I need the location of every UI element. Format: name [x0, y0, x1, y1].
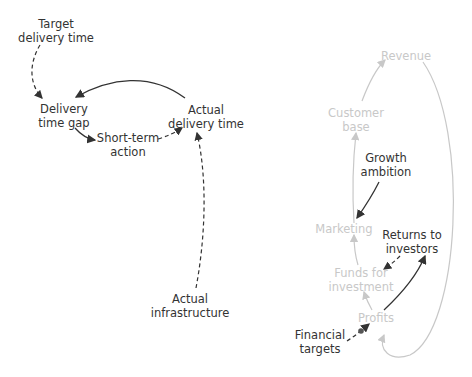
- node-target-delivery-time: Targetdelivery time: [18, 17, 94, 45]
- label-line: Revenue: [381, 49, 431, 63]
- node-financial-targets: Financialtargets: [295, 328, 345, 356]
- label-line: Actual: [151, 292, 230, 306]
- arrow-marketing-to-customer: [353, 133, 356, 223]
- node-actual-infrastructure: Actualinfrastructure: [151, 292, 230, 320]
- label-line: Growth: [361, 151, 412, 165]
- label-line: Target: [18, 17, 94, 31]
- label-line: Actual: [168, 103, 244, 117]
- label-line: Profits: [358, 311, 394, 325]
- label-line: delivery time: [18, 31, 94, 45]
- node-short-term-action: Short-termaction: [97, 131, 159, 159]
- arrow-customer-to-revenue: [362, 60, 385, 101]
- arrow-infra-to-actual: [196, 133, 204, 288]
- label-line: investors: [382, 242, 441, 256]
- arrow-target-to-gap: [32, 45, 42, 98]
- node-growth-ambition: Growthambition: [361, 151, 412, 179]
- node-actual-delivery-time: Actualdelivery time: [168, 103, 244, 131]
- label-line: Delivery: [38, 102, 89, 116]
- arrow-profits-to-funds: [364, 292, 372, 310]
- node-returns-to-investors: Returns toinvestors: [382, 228, 441, 256]
- label-line: ambition: [361, 165, 412, 179]
- arrow-growth-to-marketing: [357, 182, 379, 218]
- label-line: delivery time: [168, 117, 244, 131]
- label-line: Marketing: [315, 222, 372, 236]
- label-line: Returns to: [382, 228, 441, 242]
- node-revenue: Revenue: [381, 49, 431, 63]
- label-line: Funds for: [329, 266, 394, 280]
- arrow-targets-to-profits: [347, 324, 369, 341]
- label-line: Customer: [328, 106, 384, 120]
- label-line: Short-term: [97, 131, 159, 145]
- label-line: time gap: [38, 116, 89, 130]
- arrow-funds-to-marketing: [354, 235, 358, 265]
- node-funds-for-investment: Funds forinvestment: [329, 266, 394, 294]
- node-customer-base: Customerbase: [328, 106, 384, 134]
- label-line: action: [97, 145, 159, 159]
- label-line: base: [328, 120, 384, 134]
- node-delivery-time-gap: Deliverytime gap: [38, 102, 89, 130]
- arrow-actual-to-gap: [76, 81, 185, 98]
- label-line: Financial: [295, 328, 345, 342]
- label-line: infrastructure: [151, 306, 230, 320]
- node-marketing: Marketing: [315, 222, 372, 236]
- label-line: investment: [329, 280, 394, 294]
- constraint-dot: [358, 328, 364, 334]
- label-line: targets: [295, 342, 345, 356]
- node-profits: Profits: [358, 311, 394, 325]
